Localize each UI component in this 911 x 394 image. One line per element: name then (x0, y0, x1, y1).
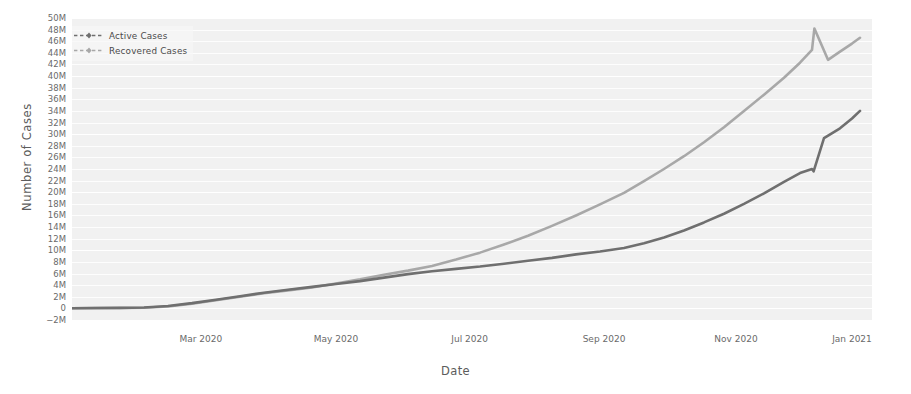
x-axis-title: Date (0, 364, 911, 378)
y-tick-label: 34M (48, 107, 66, 115)
y-tick-label: 24M (48, 165, 66, 173)
x-tick-label: Nov 2020 (714, 334, 757, 344)
y-tick-label: −2M (46, 316, 66, 324)
y-tick-label: 44M (48, 49, 66, 57)
y-tick-label: 30M (48, 130, 66, 138)
legend-line-marker-icon (74, 30, 104, 41)
y-tick-label: 26M (48, 153, 66, 161)
y-tick-label: 10M (48, 246, 66, 254)
y-tick-label: 18M (48, 200, 66, 208)
x-tick-label: Sep 2020 (583, 334, 626, 344)
line-active-cases (72, 111, 860, 308)
y-tick-label: 40M (48, 72, 66, 80)
chart-figure: Number of Cases 50M48M46M44M42M40M38M36M… (0, 0, 911, 394)
y-tick-label: 42M (48, 60, 66, 68)
y-tick-label: 2M (53, 293, 66, 301)
y-tick-label: 14M (48, 223, 66, 231)
legend-line-marker-icon (74, 45, 104, 56)
y-tick-label: 28M (48, 142, 66, 150)
y-tick-label: 46M (48, 37, 66, 45)
y-tick-label: 48M (48, 26, 66, 34)
x-tick-label: May 2020 (314, 334, 358, 344)
y-tick-label: 0 (61, 304, 66, 312)
x-tick-label: Mar 2020 (179, 334, 222, 344)
legend-item-recovered-cases: Recovered Cases (74, 43, 187, 58)
series-lines (72, 18, 872, 320)
y-tick-label: 38M (48, 84, 66, 92)
y-tick-label: 6M (53, 270, 66, 278)
y-tick-label: 36M (48, 95, 66, 103)
y-tick-label: 16M (48, 211, 66, 219)
y-tick-label: 32M (48, 119, 66, 127)
y-tick-label: 4M (53, 281, 66, 289)
plot-area (72, 18, 872, 320)
y-tick-label: 50M (48, 14, 66, 22)
y-tick-label: 20M (48, 188, 66, 196)
y-tick-label: 22M (48, 177, 66, 185)
x-tick-label: Jan 2021 (832, 334, 872, 344)
line-recovered-cases (72, 28, 860, 308)
legend-item-active-cases: Active Cases (74, 28, 187, 43)
legend-label-recovered-cases: Recovered Cases (109, 46, 187, 56)
x-tick-label: Jul 2020 (451, 334, 488, 344)
y-tick-label: 8M (53, 258, 66, 266)
y-tick-label: 12M (48, 235, 66, 243)
x-axis-tick-labels: Mar 2020May 2020Jul 2020Sep 2020Nov 2020… (0, 334, 911, 354)
legend: Active Cases Recovered Cases (72, 26, 193, 61)
legend-label-active-cases: Active Cases (109, 31, 168, 41)
